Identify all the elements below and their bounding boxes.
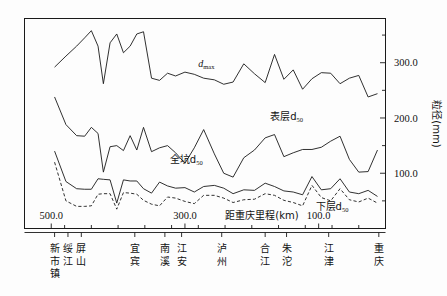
series-surface-d50-line [55,97,378,177]
station-label: 朱沱 [282,243,292,267]
y-tick-label-300: 300.0 [394,57,418,68]
annotation-lower-d50: 下层d50 [316,201,349,213]
station-label-char: 沱 [282,255,292,267]
station-label-char: 宾 [130,255,140,267]
annotation-surface-sub: 50 [296,116,303,123]
station-label: 泸州 [217,243,227,267]
station-label-char: 庆 [374,255,384,267]
station-label-char: 绥 [63,243,73,254]
y-tick-label-200: 200.0 [394,113,418,124]
x-tick-label-500: 500.0 [39,210,63,221]
plot-frame [25,19,386,229]
station-labels: 新市镇绥江屏山宜宾南溪江安泸州合江朱沱江津重庆 [50,242,384,279]
x-axis-title: 距重庆里程(km) [225,209,298,221]
station-label-char: 市 [50,255,60,267]
station-label-char: 山 [76,256,86,267]
y-axis-title: 粒径(mm) [431,100,443,147]
station-label: 重庆 [374,242,384,267]
annotation-surface-base: 表层d [270,110,296,122]
station-label-char: 津 [324,256,334,267]
x-tick-label-300: 300.0 [173,210,197,221]
station-label: 屏山 [76,243,86,267]
station-label-char: 江 [177,243,187,254]
annotation-lower-base: 下层d [316,201,342,212]
station-label: 江津 [324,243,334,267]
chart-figure-root: 100.0 200.0 300.0 粒径(mm) 500.0 300.0 100… [0,0,447,296]
station-label-char: 溪 [160,256,170,267]
annotation-dmax: dmax [198,58,215,70]
station-label-char: 新 [50,242,60,254]
station-label-char: 屏 [76,243,86,254]
station-label-char: 南 [160,242,170,254]
station-label-char: 镇 [50,267,60,279]
station-tick-marks [55,233,379,238]
annotation-whole-pit-d50: 全坑d50 [170,153,203,166]
station-label-char: 泸 [217,243,227,254]
x-axis-ticks [51,224,359,229]
annotation-whole-sub: 50 [196,159,203,166]
annotation-lower-sub: 50 [342,206,349,213]
station-label-char: 州 [217,256,227,267]
chart-plot-svg: 100.0 200.0 300.0 粒径(mm) 500.0 300.0 100… [0,0,447,296]
chart-figure: 100.0 200.0 300.0 粒径(mm) 500.0 300.0 100… [0,0,447,296]
station-label-char: 江 [63,256,73,267]
y-axis-ticks [380,35,386,201]
station-label: 江安 [177,243,187,267]
y-tick-label-100: 100.0 [394,168,418,179]
station-label-char: 安 [177,255,187,267]
station-label-char: 宜 [130,242,140,254]
station-label-char: 江 [260,256,270,267]
station-label: 新市镇 [50,242,60,279]
station-label-char: 重 [374,242,384,254]
station-label: 宜宾 [130,242,140,267]
station-label: 合江 [260,242,270,267]
annotation-whole-base: 全坑d [170,153,196,165]
station-label: 绥江 [63,243,73,267]
station-label-char: 江 [324,243,334,254]
series-dmax-line [55,31,378,97]
station-label: 南溪 [160,242,170,267]
annotation-dmax-sub: max [203,63,215,70]
station-label-char: 合 [260,242,270,254]
station-label-char: 朱 [282,243,292,254]
annotation-surface-d50: 表层d50 [270,110,303,123]
series-whole-pit-d50-line [55,151,378,203]
